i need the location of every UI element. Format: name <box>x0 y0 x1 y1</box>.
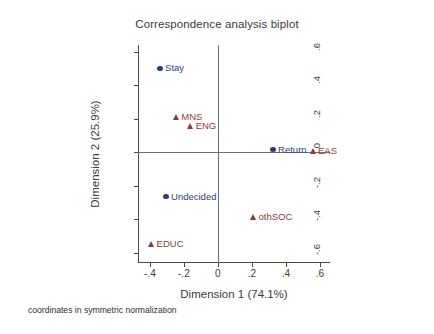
y-axis-title: Dimension 2 (25.9%) <box>89 100 101 207</box>
x-tick <box>218 263 219 267</box>
triangle-marker-icon <box>148 241 154 247</box>
y-tick <box>134 119 138 120</box>
plot-area: .6.4.20-.2-.4-.6 -.4-.20.2.4.6 StayRetur… <box>138 45 330 263</box>
circle-marker-icon <box>157 66 162 71</box>
y-tick <box>134 85 138 86</box>
triangle-marker-icon <box>310 148 316 154</box>
x-tick-label: 0 <box>215 268 221 279</box>
vertical-zero-line <box>218 45 219 263</box>
data-point-label: Stay <box>165 62 184 73</box>
x-tick-label: -.2 <box>178 268 190 279</box>
correspondence-analysis-figure: Correspondence analysis biplot .6.4.20-.… <box>0 0 434 334</box>
chart-footnote: coordinates in symmetric normalization <box>28 305 177 315</box>
triangle-marker-icon <box>187 123 193 129</box>
x-axis-title: Dimension 1 (74.1%) <box>138 288 330 300</box>
data-point-label: EAS <box>318 145 337 156</box>
x-tick-label: .2 <box>248 268 256 279</box>
data-point-label: Undecided <box>171 191 216 202</box>
x-tick <box>252 263 253 267</box>
y-tick-label: -.2 <box>311 177 322 188</box>
triangle-marker-icon <box>250 214 256 220</box>
x-tick <box>320 263 321 267</box>
x-tick <box>184 263 185 267</box>
circle-marker-icon <box>163 194 168 199</box>
data-point-label: Return <box>278 144 307 155</box>
y-tick-label: .6 <box>311 43 322 51</box>
data-point-label: othSOC <box>259 211 293 222</box>
x-axis-line <box>138 262 330 263</box>
y-tick-label: .2 <box>311 110 322 118</box>
y-axis-line <box>138 45 139 263</box>
y-tick-label: .4 <box>311 76 322 84</box>
y-tick <box>134 253 138 254</box>
x-tick <box>286 263 287 267</box>
triangle-marker-icon <box>173 114 179 120</box>
x-tick-label: .6 <box>316 268 324 279</box>
data-point-label: ENG <box>196 120 217 131</box>
y-tick-label: -.6 <box>311 244 322 255</box>
chart-title: Correspondence analysis biplot <box>0 18 434 30</box>
data-point-label: EDUC <box>157 238 184 249</box>
y-tick <box>134 52 138 53</box>
x-tick-label: -.4 <box>144 268 156 279</box>
y-tick <box>134 219 138 220</box>
y-tick <box>134 186 138 187</box>
x-tick <box>150 263 151 267</box>
y-tick-label: -.4 <box>311 210 322 221</box>
x-tick-label: .4 <box>282 268 290 279</box>
